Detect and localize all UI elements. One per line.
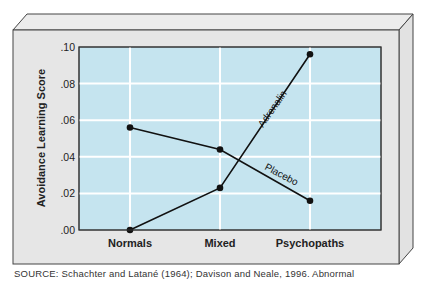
- y-tick-label: .00: [60, 224, 75, 236]
- y-tick-label: .04: [60, 151, 75, 163]
- x-category-label: Psychopaths: [276, 237, 344, 249]
- y-tick-label: .08: [60, 78, 75, 90]
- y-axis-label: Avoidance Learning Score: [35, 69, 47, 207]
- data-point: [307, 51, 314, 58]
- x-axis-categories: NormalsMixedPsychopaths: [108, 237, 344, 249]
- frame-top-face: [13, 14, 413, 30]
- x-category-label: Normals: [108, 237, 152, 249]
- y-tick-label: .06: [60, 114, 75, 126]
- data-point: [217, 146, 224, 153]
- data-point: [217, 185, 224, 192]
- data-point: [307, 197, 314, 204]
- frame-side-face: [399, 14, 413, 264]
- y-tick-label: .10: [60, 41, 75, 53]
- source-caption: SOURCE: Schachter and Latané (1964); Dav…: [14, 268, 424, 279]
- x-category-label: Mixed: [204, 237, 235, 249]
- plot-area: [79, 47, 381, 230]
- data-point: [127, 124, 134, 131]
- y-tick-label: .02: [60, 187, 75, 199]
